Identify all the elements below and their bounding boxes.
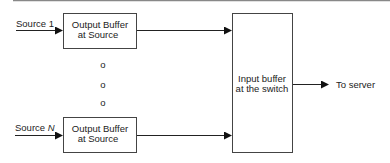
buffer-diagram: Source 1 Output Buffer at Source o o o S…	[0, 0, 390, 163]
input-buffer-line2: at the switch	[236, 83, 289, 94]
switch: Input buffer at the switch To server	[233, 14, 376, 153]
ellipsis-dot-2: o	[100, 79, 105, 90]
to-server-label: To server	[336, 79, 375, 90]
ellipsis-dot-3: o	[100, 97, 105, 108]
ellipsis-dot-1: o	[100, 59, 105, 70]
source-n-label: Source N	[15, 122, 55, 133]
source-n: Source N Output Buffer at Source	[15, 118, 231, 153]
source-1: Source 1 Output Buffer at Source	[16, 14, 231, 49]
output-buffer-n-line2: at Source	[78, 133, 119, 144]
output-buffer-1-line2: at Source	[78, 29, 119, 40]
source-1-label: Source 1	[16, 18, 54, 29]
